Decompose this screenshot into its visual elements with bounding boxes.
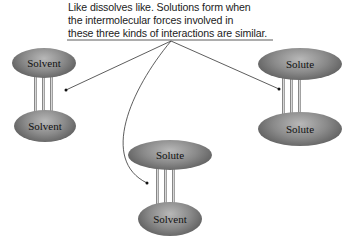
label: Solute	[286, 123, 314, 135]
label: Solute	[156, 149, 184, 161]
pointer-line-left	[66, 41, 171, 90]
solute-top-ellipse: Solute	[128, 140, 212, 170]
solvent-bottom-ellipse: Solvent	[138, 202, 202, 236]
label: Solvent	[27, 57, 61, 69]
solute-top-ellipse: Solute	[258, 48, 342, 80]
solvent-top-ellipse: Solvent	[12, 48, 76, 78]
label: Solute	[286, 58, 314, 70]
pointer-dot-left	[65, 89, 68, 92]
label: Solvent	[28, 120, 62, 132]
solvent-bottom-ellipse: Solvent	[14, 110, 76, 142]
solute-bottom-ellipse: Solute	[258, 112, 342, 146]
label: Solvent	[153, 213, 187, 225]
pointer-dot-right	[278, 88, 281, 91]
pointer-dot-bottom	[146, 182, 149, 185]
